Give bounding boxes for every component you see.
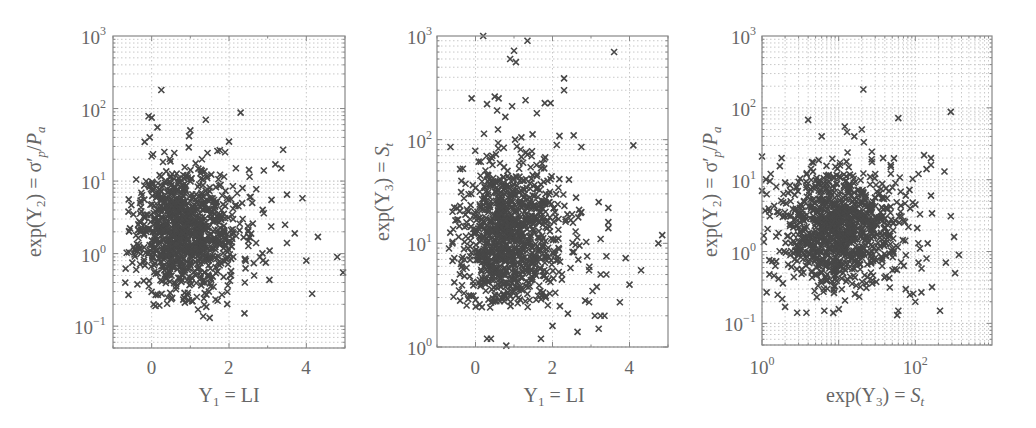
y-tick-label: 103 bbox=[731, 28, 756, 47]
scatter-panel-3: 10−1100101102103100102exp(Y3) = Stexp(Y2… bbox=[0, 0, 1036, 428]
x-tick-label: 102 bbox=[903, 358, 928, 377]
y-tick-label: 101 bbox=[731, 172, 756, 191]
y-tick-label: 102 bbox=[731, 100, 756, 119]
x-tick-label: 100 bbox=[750, 358, 775, 377]
y-axis-label: exp(Y2) = σ′p/Pa bbox=[700, 127, 720, 257]
y-tick-label: 100 bbox=[731, 244, 756, 263]
data-markers bbox=[759, 87, 962, 319]
y-tick-label: 10−1 bbox=[724, 315, 756, 334]
x-axis-label: exp(Y3) = St bbox=[826, 385, 924, 405]
plot-canvas-3 bbox=[0, 0, 1036, 428]
